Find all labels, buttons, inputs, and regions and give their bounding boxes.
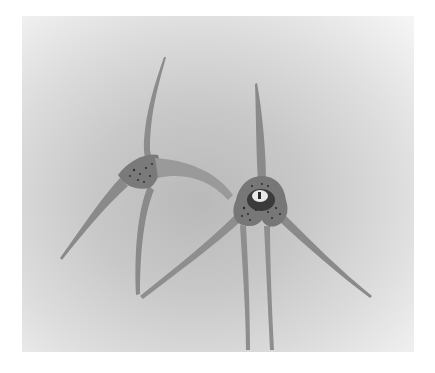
right-orchid xyxy=(233,83,372,350)
orchid-painting xyxy=(0,0,435,373)
sweeping-sepal xyxy=(140,215,240,299)
left-orchid xyxy=(60,57,233,295)
